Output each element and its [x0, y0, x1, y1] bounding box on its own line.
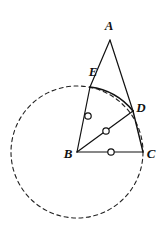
tick-on-bd: [103, 128, 109, 134]
segment-d-c: [133, 111, 143, 152]
geometry-figure: A B C D E: [0, 0, 165, 230]
vertex-label-e: E: [88, 64, 98, 79]
vertex-label-b: B: [63, 146, 73, 161]
tick-on-be: [85, 113, 91, 119]
vertex-label-a: A: [104, 18, 114, 33]
vertex-label-c: C: [147, 146, 156, 161]
geometry-canvas: A B C D E: [0, 0, 165, 230]
vertex-label-d: D: [135, 100, 146, 115]
tick-on-bc: [108, 149, 114, 155]
